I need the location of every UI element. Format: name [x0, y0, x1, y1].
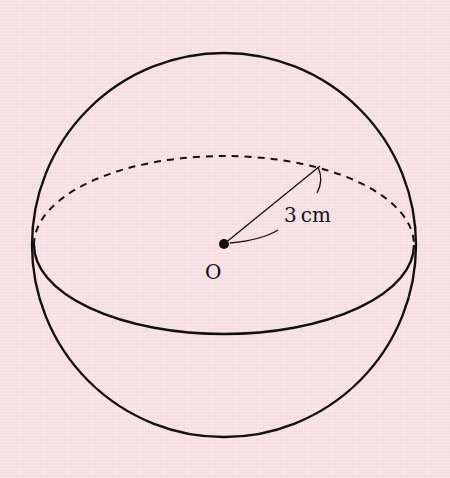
equator-visible-arc	[34, 245, 414, 334]
radius-brace-upper	[317, 167, 321, 193]
center-point	[219, 239, 229, 249]
diagram-canvas: 3cm O	[0, 0, 450, 478]
equator-hidden-arc	[34, 156, 414, 245]
sphere-diagram: 3cm O	[0, 0, 450, 478]
radius-label: 3cm	[284, 203, 331, 227]
center-label: O	[205, 260, 221, 284]
radius-brace-lower	[230, 230, 278, 243]
